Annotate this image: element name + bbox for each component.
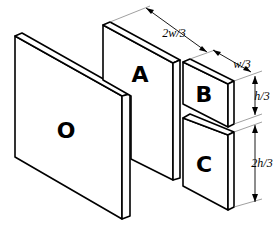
plates-diagram: O A B C 2w/3 w/3 h/3 2h/3	[0, 0, 279, 228]
plate-label-b: B	[196, 82, 213, 107]
plate-label-c: C	[196, 152, 212, 177]
plate-label-o: O	[57, 118, 76, 143]
plate-label-a: A	[131, 62, 148, 87]
dimension-label-2h3: 2h/3	[251, 156, 272, 170]
diagram-canvas: O A B C 2w/3 w/3 h/3 2h/3	[0, 0, 279, 228]
dimension-label-w3: w/3	[233, 57, 250, 71]
dimension-label-2w3: 2w/3	[162, 26, 185, 40]
dimension-label-h3: h/3	[254, 89, 269, 103]
